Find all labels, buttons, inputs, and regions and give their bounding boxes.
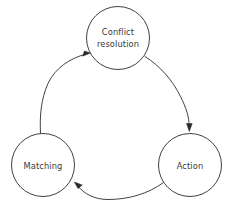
- node-matching[interactable]: Matching: [12, 134, 75, 197]
- arrowhead-into-action: [187, 124, 193, 132]
- node-action[interactable]: Action: [159, 134, 222, 197]
- edge-conflict-resolution-to-action-path: [145, 57, 189, 126]
- node-conflict-resolution-label-line2: resolution: [97, 39, 139, 49]
- edge-action-to-matching-path: [78, 183, 163, 200]
- node-conflict-resolution-label-line1: Conflict: [102, 27, 135, 37]
- arrowhead-into-matching: [74, 182, 82, 189]
- edge-matching-to-conflict-resolution-path: [40, 54, 85, 133]
- node-conflict-resolution[interactable]: Conflict resolution: [87, 7, 150, 70]
- edge-matching-to-conflict-resolution: [40, 51, 90, 133]
- edge-action-to-matching: [74, 182, 163, 200]
- edge-conflict-resolution-to-action: [145, 57, 192, 132]
- node-matching-label: Matching: [24, 161, 63, 171]
- node-action-label: Action: [177, 161, 204, 171]
- cycle-diagram: Conflict resolution Action Matching: [0, 0, 233, 210]
- cycle-diagram-canvas: Conflict resolution Action Matching: [0, 0, 233, 210]
